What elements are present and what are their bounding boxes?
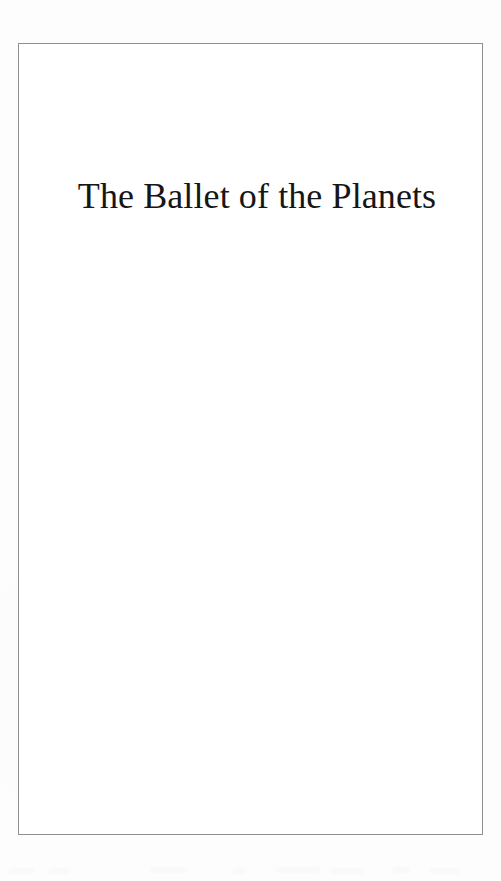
scan-smudge	[232, 868, 246, 874]
scan-smudge	[8, 868, 34, 874]
title-block: The Ballet of the Planets	[19, 44, 484, 836]
scan-smudge	[48, 868, 70, 874]
scanner-edge-artifacts	[0, 856, 501, 881]
scan-smudge	[150, 867, 188, 873]
page-title: The Ballet of the Planets	[19, 174, 484, 218]
scan-smudge	[430, 868, 460, 874]
scanned-page: The Ballet of the Planets	[0, 0, 501, 881]
scan-smudge	[392, 867, 410, 873]
scan-smudge	[275, 867, 321, 873]
scan-smudge	[330, 868, 364, 874]
page-rule-border: The Ballet of the Planets	[18, 43, 483, 835]
